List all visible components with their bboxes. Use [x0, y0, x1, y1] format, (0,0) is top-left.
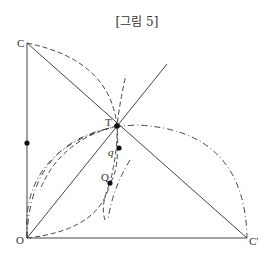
label-T: T: [105, 116, 112, 128]
label-q: q: [108, 146, 114, 158]
segment-CC-prime: [27, 43, 247, 238]
diagonal-line: [27, 64, 167, 238]
dashdot-semicircle: [27, 125, 247, 238]
dashed-arc-C: [27, 43, 118, 220]
label-Q: Q: [101, 171, 109, 183]
point-left-mark: [24, 140, 29, 145]
label-C-prime: C': [249, 235, 258, 247]
dashdot-arc-Q: [108, 160, 130, 220]
label-O: O: [16, 234, 24, 246]
point-q: [116, 145, 121, 150]
point-T: [114, 123, 120, 129]
label-C: C: [17, 37, 24, 49]
geometry-diagram: C O C' T q Q: [0, 0, 274, 256]
